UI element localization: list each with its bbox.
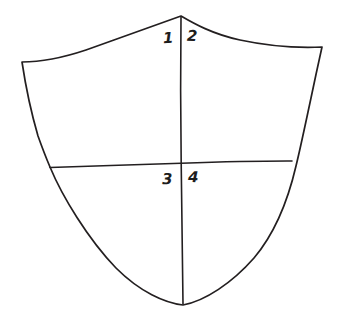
quadrant-label-4: 4 [188, 170, 199, 185]
quadrant-label-1: 1 [163, 31, 174, 47]
shield-diagram-svg [0, 0, 340, 322]
quadrant-label-3: 3 [162, 172, 173, 187]
diagram-canvas: 1 2 3 4 [0, 0, 340, 322]
quadrant-label-2: 2 [187, 29, 198, 44]
